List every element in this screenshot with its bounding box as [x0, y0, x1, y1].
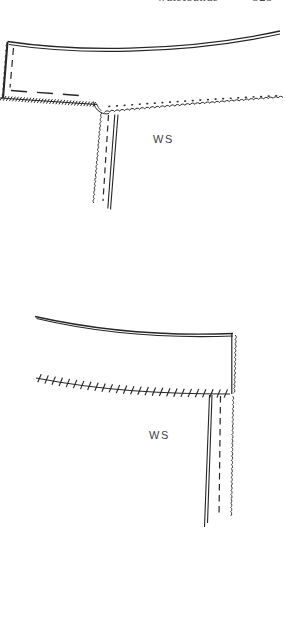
figure-top	[0, 31, 283, 210]
book-page: waistbands 323	[0, 0, 285, 629]
join-curl	[94, 102, 110, 114]
top-fold-edge-inner	[9, 34, 280, 51]
stitch-ticks	[0, 96, 96, 107]
label-ws-bottom: WS	[149, 429, 170, 441]
strip-dashed-line	[103, 115, 109, 201]
right-edge-overcast	[234, 335, 237, 393]
left-dashed-seamline	[10, 48, 14, 88]
label-ws-top: WS	[153, 133, 174, 145]
strip-dashed-line	[219, 396, 221, 516]
figure-bottom	[35, 317, 236, 528]
dotted-stitch-line	[109, 96, 282, 107]
strip-edge-line-2	[208, 395, 213, 523]
strip-overcast-edge	[93, 113, 102, 203]
top-fold-edge-outer	[8, 31, 281, 48]
top-fold-edge-outer	[35, 317, 233, 335]
strip-edge-line-1	[205, 395, 210, 527]
waistband-diagrams	[0, 0, 285, 629]
strip-overcast-edge	[231, 396, 234, 516]
catchstitch-line	[36, 378, 230, 394]
bottom-dashed-seamline	[11, 91, 87, 97]
